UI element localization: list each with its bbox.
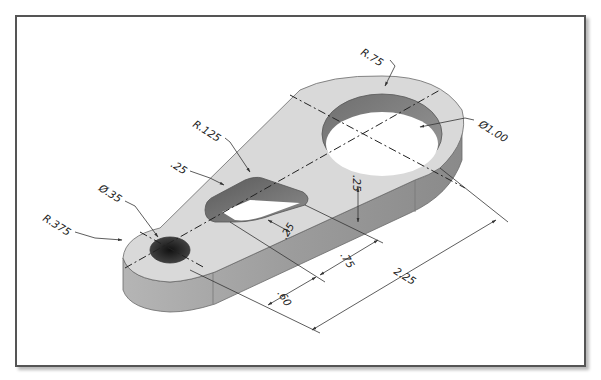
- label-dia35: Ø.35: [96, 181, 124, 205]
- label-r125: R.125: [191, 118, 224, 145]
- label-thickness: .25: [351, 175, 363, 192]
- isometric-drawing: R.75 Ø1.00 R.125 .25 Ø.35 R.375 .25 .25 …: [0, 0, 601, 380]
- label-dia100: Ø1.00: [476, 117, 510, 145]
- label-slot-offset: .25: [169, 158, 190, 177]
- extension-line: [440, 168, 508, 222]
- label-center-distance: 2.25: [392, 265, 418, 288]
- leader-r375: [75, 232, 122, 240]
- label-r375: R.375: [41, 212, 74, 239]
- large-bore-opening: [326, 112, 438, 176]
- label-slot-length: .75: [338, 250, 357, 271]
- label-r75: R.75: [359, 46, 386, 69]
